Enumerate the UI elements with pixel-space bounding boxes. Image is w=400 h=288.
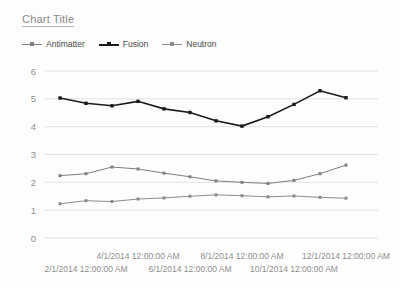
data-point-marker xyxy=(318,89,321,92)
data-point-marker xyxy=(345,197,348,200)
data-point-marker xyxy=(59,202,62,205)
y-axis-labels: 0123456 xyxy=(31,66,36,244)
y-axis-tick-label: 5 xyxy=(31,93,36,104)
data-point-marker xyxy=(319,196,322,199)
data-point-marker xyxy=(111,166,114,169)
data-point-marker xyxy=(293,179,296,182)
data-point-marker xyxy=(241,194,244,197)
y-axis-tick-label: 2 xyxy=(31,177,36,188)
x-axis-tick-label: 4/1/2014 12:00:00 AM xyxy=(96,251,179,261)
y-axis-tick-label: 1 xyxy=(31,205,36,216)
chart-container: Chart Title AntimatterFusionNeutron 0123… xyxy=(0,0,400,288)
x-axis-tick-label: 10/1/2014 12:00:00 AM xyxy=(250,264,338,274)
data-point-marker xyxy=(85,172,88,175)
gridlines xyxy=(45,71,378,238)
data-point-marker xyxy=(137,167,140,170)
data-point-marker xyxy=(215,179,218,182)
data-point-marker xyxy=(189,195,192,198)
y-axis-tick-label: 3 xyxy=(31,149,36,160)
data-point-marker xyxy=(110,104,113,107)
data-point-marker xyxy=(214,119,217,122)
data-point-marker xyxy=(58,96,61,99)
x-axis-tick-label: 6/1/2014 12:00:00 AM xyxy=(148,264,231,274)
data-point-marker xyxy=(111,200,114,203)
data-point-marker xyxy=(84,102,87,105)
data-point-marker xyxy=(59,174,62,177)
data-point-marker xyxy=(267,182,270,185)
x-axis-tick-label: 8/1/2014 12:00:00 AM xyxy=(200,251,283,261)
series-antimatter xyxy=(59,164,348,185)
x-axis-labels: 2/1/2014 12:00:00 AM4/1/2014 12:00:00 AM… xyxy=(44,251,390,274)
data-point-marker xyxy=(163,196,166,199)
series-line xyxy=(60,195,346,204)
series-line xyxy=(60,91,346,126)
series-neutron xyxy=(59,193,348,205)
x-axis-tick-label: 2/1/2014 12:00:00 AM xyxy=(44,264,127,274)
data-point-marker xyxy=(344,96,347,99)
series-line xyxy=(60,165,346,183)
y-axis-tick-label: 0 xyxy=(31,233,36,244)
data-point-marker xyxy=(241,181,244,184)
data-point-marker xyxy=(215,193,218,196)
data-point-marker xyxy=(137,198,140,201)
data-point-marker xyxy=(240,124,243,127)
data-point-marker xyxy=(163,172,166,175)
series-fusion xyxy=(58,89,347,128)
data-point-marker xyxy=(267,195,270,198)
data-point-marker xyxy=(266,115,269,118)
data-point-marker xyxy=(345,164,348,167)
data-point-marker xyxy=(189,175,192,178)
x-axis-tick-label: 12/1/2014 12:00:00 AM xyxy=(302,251,390,261)
data-point-marker xyxy=(162,107,165,110)
chart-plot-area: 0123456 2/1/2014 12:00:00 AM4/1/2014 12:… xyxy=(0,0,400,288)
data-point-marker xyxy=(293,194,296,197)
data-series xyxy=(58,89,347,205)
data-point-marker xyxy=(292,103,295,106)
data-point-marker xyxy=(188,111,191,114)
y-axis-tick-label: 4 xyxy=(31,121,36,132)
data-point-marker xyxy=(136,100,139,103)
data-point-marker xyxy=(85,199,88,202)
data-point-marker xyxy=(319,172,322,175)
y-axis-tick-label: 6 xyxy=(31,66,36,77)
